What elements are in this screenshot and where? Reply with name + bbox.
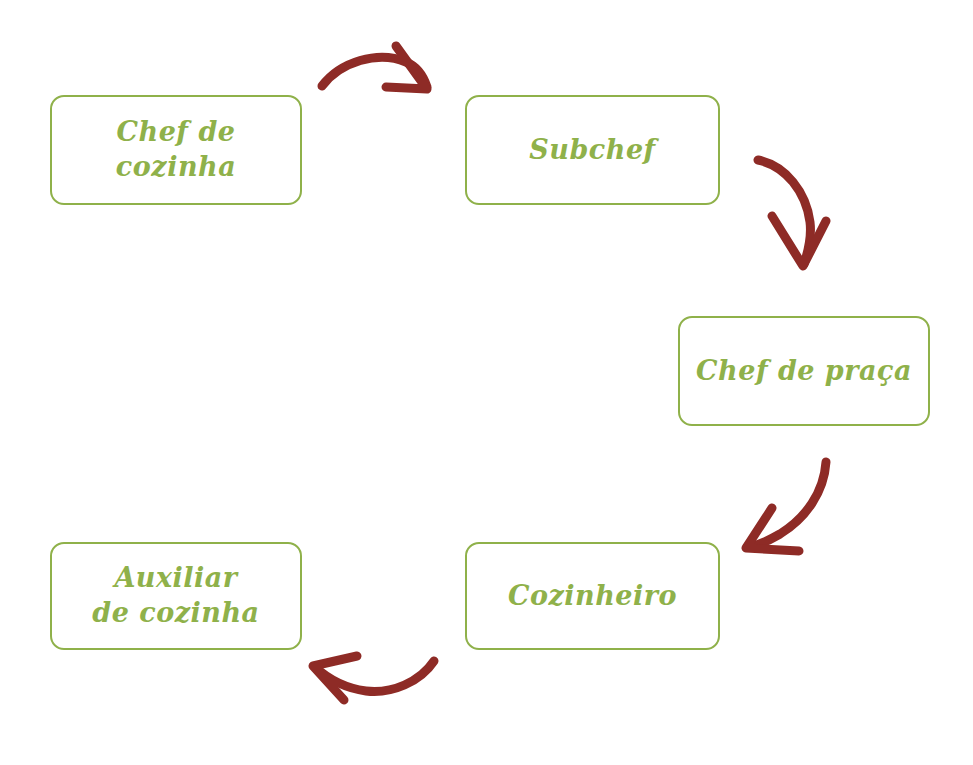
node-label: Chef de cozinha [52,115,300,184]
node-label: Auxiliar de cozinha [82,561,269,630]
node-chef-de-cozinha[interactable]: Chef de cozinha [50,95,302,205]
node-auxiliar-de-cozinha[interactable]: Auxiliar de cozinha [50,542,302,650]
arrow-right-upper [758,160,826,266]
node-chef-de-praca[interactable]: Chef de praça [678,316,930,426]
node-label: Cozinheiro [498,579,687,614]
arrow-top [322,46,427,89]
node-subchef[interactable]: Subchef [465,95,720,205]
arrow-right-lower [746,462,826,551]
node-label: Chef de praça [686,354,922,389]
node-cozinheiro[interactable]: Cozinheiro [465,542,720,650]
node-label: Subchef [519,133,665,168]
arrow-bottom [313,656,434,700]
diagram-canvas: Chef de cozinha Subchef Chef de praça Co… [0,0,973,765]
